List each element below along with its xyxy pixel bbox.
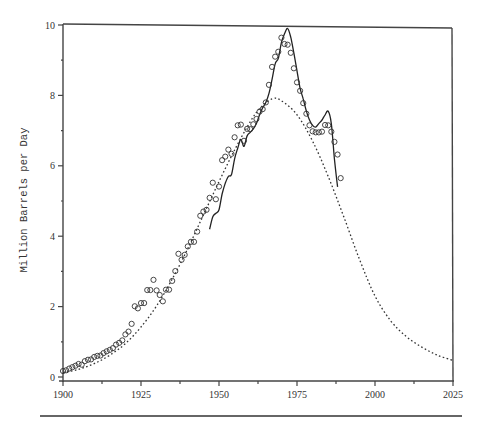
y-axis-tick-labels: 0246810 — [45, 20, 55, 383]
observed-point-marker — [238, 122, 243, 127]
axis-ticks — [58, 25, 453, 386]
observed-point-marker — [248, 127, 253, 132]
top-border-line — [63, 24, 452, 28]
observed-point-marker — [310, 129, 315, 134]
observed-point-marker — [157, 292, 162, 297]
observed-point-marker — [326, 123, 331, 128]
x-tick-label: 1900 — [53, 389, 73, 400]
observed-point-marker — [79, 362, 84, 367]
observed-point-marker — [70, 365, 75, 370]
observed-point-marker — [126, 329, 131, 334]
y-tick-label: 4 — [50, 231, 55, 242]
observed-point-marker — [191, 239, 196, 244]
x-tick-label: 1950 — [209, 389, 229, 400]
right-border-line — [452, 28, 453, 381]
x-axis-tick-labels: 190019251950197520002025 — [53, 389, 463, 400]
observed-point-marker — [123, 332, 128, 337]
observed-point-marker — [179, 257, 184, 262]
y-tick-label: 10 — [45, 20, 55, 31]
observed-point-marker — [207, 195, 212, 200]
observed-point-marker — [273, 54, 278, 59]
y-axis-label: Million Barrels per Day — [18, 128, 30, 273]
model-curve-dotted — [63, 98, 453, 373]
observed-point-marker — [288, 50, 293, 55]
observed-point-marker — [251, 122, 256, 127]
x-tick-label: 1925 — [131, 389, 151, 400]
observed-point-marker — [176, 251, 181, 256]
observed-point-marker — [319, 129, 324, 134]
observed-point-marker — [151, 277, 156, 282]
x-tick-label: 2025 — [443, 389, 463, 400]
observed-point-marker — [335, 152, 340, 157]
observed-point-marker — [291, 66, 296, 71]
observed-point-marker — [129, 321, 134, 326]
x-tick-label: 2000 — [365, 389, 385, 400]
observed-point-marker — [307, 123, 312, 128]
observed-point-marker — [338, 176, 343, 181]
y-tick-label: 6 — [50, 160, 55, 171]
observed-point-marker — [213, 197, 218, 202]
y-tick-label: 2 — [50, 301, 55, 312]
production-chart: 190019251950197520002025 0246810 Million… — [0, 0, 482, 421]
observed-point-marker — [148, 287, 153, 292]
x-tick-label: 1975 — [287, 389, 307, 400]
observed-point-marker — [223, 154, 228, 159]
observed-point-marker — [220, 158, 225, 163]
y-tick-label: 0 — [50, 372, 55, 383]
y-tick-label: 8 — [50, 90, 55, 101]
observed-point-marker — [160, 299, 165, 304]
observed-point-marker — [210, 180, 215, 185]
observed-point-marker — [170, 278, 175, 283]
observed-point-marker — [329, 129, 334, 134]
observed-point-marker — [232, 135, 237, 140]
observed-point-marker — [166, 287, 171, 292]
observed-point-marker — [285, 42, 290, 47]
observed-data-markers — [60, 35, 343, 374]
observed-point-marker — [82, 359, 87, 364]
plot-frame — [59, 24, 454, 382]
observed-point-marker — [142, 300, 147, 305]
